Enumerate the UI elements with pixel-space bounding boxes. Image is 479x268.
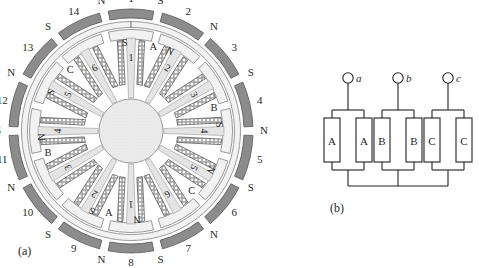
rotor-pole-number: 10 bbox=[22, 206, 34, 218]
motor-cross-section: 1234567891011121314 SNSNSNSNSNSNSN 12345… bbox=[0, 0, 268, 268]
terminal-a-group: a A A bbox=[324, 72, 372, 186]
stator-tooth bbox=[164, 127, 224, 136]
terminal-a-node[interactable] bbox=[343, 73, 353, 83]
stator-slot-number: 4 bbox=[199, 129, 210, 134]
stator-coil-side bbox=[40, 117, 85, 125]
terminal-b-node[interactable] bbox=[393, 73, 403, 83]
stator-slot-polarity: S bbox=[214, 122, 225, 128]
terminal-c-node[interactable] bbox=[443, 73, 453, 83]
stator-tooth bbox=[127, 38, 136, 98]
rotor-pole-polarity: N bbox=[97, 0, 105, 6]
rotor-pole-number: 1 bbox=[128, 0, 134, 4]
rotor-pole-number: 6 bbox=[231, 206, 237, 218]
rotor-pole-polarity: N bbox=[97, 253, 105, 265]
stator-slot-polarity: S bbox=[122, 37, 128, 48]
stator-slot-number: 4 bbox=[52, 129, 63, 134]
rotor-pole-number: 5 bbox=[257, 153, 263, 165]
terminal-c-group: c C C bbox=[424, 72, 472, 186]
stator-slot-number: 1 bbox=[129, 199, 134, 210]
coil-b2-label: B bbox=[410, 135, 417, 147]
stator-phase-letter: C bbox=[188, 185, 195, 196]
rotor-pole-number: 4 bbox=[257, 94, 263, 106]
terminal-b-label: b bbox=[406, 72, 412, 84]
rotor-pole-number: 3 bbox=[231, 41, 237, 53]
rotor-pole-number: 9 bbox=[71, 242, 77, 254]
rotor-pole-polarity: N bbox=[7, 66, 15, 78]
stator-phase-letter: B bbox=[211, 102, 218, 113]
rotor-pole-polarity: S bbox=[158, 253, 164, 265]
rotor-pole-polarity: N bbox=[260, 124, 268, 136]
stator-slot-polarity: N bbox=[134, 214, 141, 225]
rotor-pole-polarity: S bbox=[0, 124, 1, 136]
coil-b1-label: B bbox=[378, 135, 385, 147]
coil-c2-label: C bbox=[460, 135, 467, 147]
rotor-pole-polarity: S bbox=[45, 20, 51, 32]
rotor-shaft-hub bbox=[99, 99, 163, 163]
coil-c1-label: C bbox=[428, 135, 435, 147]
stator-phase-letter: C bbox=[67, 64, 74, 75]
stator-phase-letter: A bbox=[105, 207, 113, 218]
rotor-pole-number: 7 bbox=[186, 242, 192, 254]
rotor-pole-number: 12 bbox=[0, 94, 8, 106]
stator-coil-side bbox=[117, 177, 125, 222]
stator-slot-number: 1 bbox=[129, 52, 134, 63]
rotor-pole-number: 14 bbox=[68, 5, 80, 17]
rotor-magnet-segment bbox=[108, 242, 154, 253]
stator-coil-side bbox=[137, 40, 145, 85]
rotor-pole-polarity: N bbox=[7, 181, 15, 193]
terminal-c-label: c bbox=[456, 72, 461, 84]
stator-phase-letter: B bbox=[44, 147, 51, 158]
figure-svg: 1234567891011121314 SNSNSNSNSNSNSN 12345… bbox=[0, 0, 479, 268]
coil-a2-label: A bbox=[360, 135, 368, 147]
rotor-pole-polarity: S bbox=[45, 228, 51, 240]
terminal-b-group: b B B bbox=[374, 72, 422, 186]
rotor-pole-number: 2 bbox=[186, 5, 192, 17]
rotor-pole-polarity: N bbox=[210, 20, 218, 32]
stator-slot-polarity: N bbox=[37, 134, 48, 141]
figure-root: 1234567891011121314 SNSNSNSNSNSNSN 12345… bbox=[0, 0, 479, 268]
stator-phase-letter: A bbox=[149, 41, 157, 52]
coil-a1-label: A bbox=[328, 135, 336, 147]
terminal-a-label: a bbox=[356, 72, 362, 84]
rotor-pole-polarity: N bbox=[210, 228, 218, 240]
panel-b-caption: (b) bbox=[330, 201, 344, 215]
winding-circuit-diagram: a A A b bbox=[324, 72, 472, 215]
rotor-pole-number: 8 bbox=[128, 256, 134, 268]
rotor-pole-polarity: S bbox=[248, 181, 254, 193]
rotor-pole-polarity: S bbox=[248, 66, 254, 78]
rotor-pole-number: 11 bbox=[0, 153, 8, 165]
rotor-pole-polarity: S bbox=[158, 0, 164, 6]
panel-a-caption: (a) bbox=[18, 244, 31, 258]
rotor-pole-number: 13 bbox=[22, 41, 34, 53]
rotor-magnet-segment bbox=[108, 9, 154, 20]
stator-coil-side bbox=[177, 137, 222, 145]
